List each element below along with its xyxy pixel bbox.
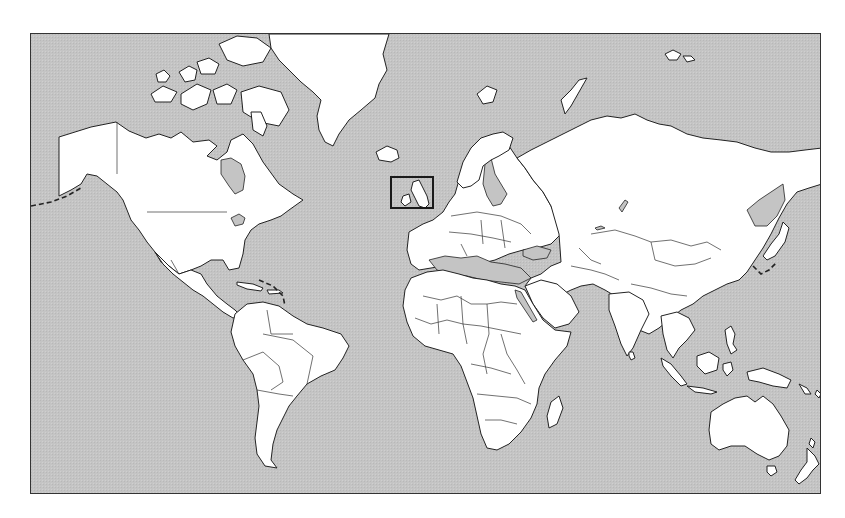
highlight-box-british-isles — [390, 176, 434, 209]
world-map — [30, 33, 821, 494]
map-canvas — [31, 34, 821, 494]
